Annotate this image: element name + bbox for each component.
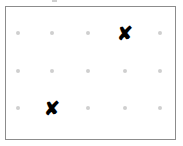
grid-dot[interactable] [16,31,20,35]
grid-dot[interactable] [158,106,162,110]
grid-dot[interactable] [123,69,127,73]
grid-dot[interactable] [86,106,90,110]
grid-dot[interactable] [16,106,20,110]
plot-frame: ✘✘ [5,6,176,140]
figure-canvas: ✘✘ [0,0,183,146]
grid-dot[interactable] [158,31,162,35]
grid-dot[interactable] [16,69,20,73]
grid-dot[interactable] [158,69,162,73]
marker-bottom-left[interactable]: ✘ [44,99,60,118]
grid-dot[interactable] [50,69,54,73]
scan-artifact [52,0,57,2]
grid-dot[interactable] [86,69,90,73]
grid-dot[interactable] [86,31,90,35]
marker-top-right[interactable]: ✘ [117,24,133,43]
grid-dot[interactable] [123,106,127,110]
grid-dot[interactable] [50,31,54,35]
